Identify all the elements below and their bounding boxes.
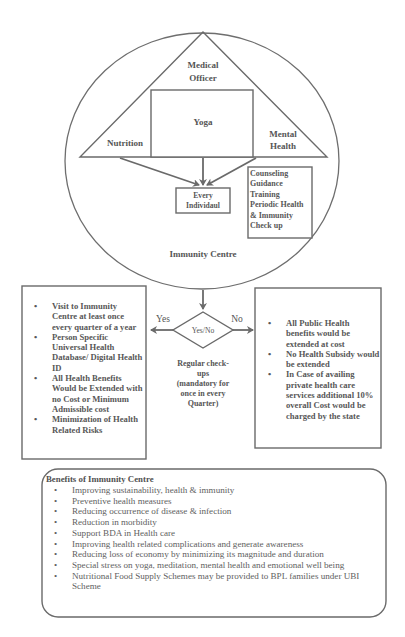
nutrition-label: Nutrition xyxy=(107,138,143,148)
service-item: Counseling xyxy=(250,169,312,179)
yes-outcome-item: Visit to Immunity Centre at least once e… xyxy=(26,301,144,332)
benefit-item: Support BDA in Health care xyxy=(46,528,384,539)
benefit-item: Improving sustainability, health & immun… xyxy=(46,485,384,496)
benefit-item: Preventive health measures xyxy=(46,496,384,507)
yes-outcome-item: Person Specific Universal Health Databas… xyxy=(26,332,144,373)
no-outcome-item: All Public Health benefits would be exte… xyxy=(260,318,380,349)
services-list: Counseling Guidance Training Periodic He… xyxy=(250,169,312,231)
service-item: Periodic Health xyxy=(250,200,312,210)
mental-health-label-2: Health xyxy=(270,141,296,151)
benefits-title: Benefits of Immunity Centre xyxy=(46,474,384,484)
benefit-item: Special stress on yoga, meditation, ment… xyxy=(46,560,384,571)
yes-outcome-list: Visit to Immunity Centre at least once e… xyxy=(26,301,144,435)
medical-officer-label-2: Officer xyxy=(189,73,216,83)
decision-caption-2: ups xyxy=(197,369,209,378)
every-individual-label-2: Individaul xyxy=(186,201,220,210)
decision-label: Yes/No xyxy=(192,326,215,335)
no-label: No xyxy=(231,314,243,324)
immunity-centre-label: Immunity Centre xyxy=(169,249,236,259)
service-item: Check up xyxy=(250,221,312,231)
service-item: Guidance xyxy=(250,179,312,189)
no-outcome-list: All Public Health benefits would be exte… xyxy=(260,318,380,421)
decision-caption-1: Regular check- xyxy=(177,359,229,368)
decision-caption-5: Quarter) xyxy=(188,399,219,408)
benefits-list: Improving sustainability, health & immun… xyxy=(46,485,384,592)
arrow-nutrition-to-individual xyxy=(120,158,199,185)
no-outcome-item: In Case of availing private health care … xyxy=(260,369,380,420)
yes-outcome-item: Minimization of Health Related Risks xyxy=(26,414,144,435)
no-outcome-item: No Health Subsidy would be extended xyxy=(260,349,380,370)
decision-caption-4: once in every xyxy=(181,389,226,398)
mental-health-label: Mental xyxy=(269,129,297,139)
benefit-item: Reducing occurrence of disease & infecti… xyxy=(46,506,384,517)
decision-caption-3: (mandatory for xyxy=(177,379,230,388)
service-item: Training xyxy=(250,190,312,200)
yoga-label: Yoga xyxy=(193,117,213,127)
benefit-item: Reducing loss of economy by minimizing i… xyxy=(46,549,384,560)
medical-officer-label: Medical xyxy=(188,60,219,70)
benefit-item: Nutritional Food Supply Schemes may be p… xyxy=(46,571,384,592)
service-item: & Immunity xyxy=(250,211,312,221)
yes-label: Yes xyxy=(156,314,170,324)
benefit-item: Improving health related complications a… xyxy=(46,539,384,550)
benefit-item: Reduction in morbidity xyxy=(46,517,384,528)
every-individual-label: Every xyxy=(193,191,213,200)
yes-outcome-item: All Health Benefits Would be Extended wi… xyxy=(26,373,144,414)
benefits-content: Benefits of Immunity Centre Improving su… xyxy=(46,474,384,592)
